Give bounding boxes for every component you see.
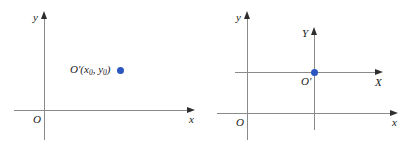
point-label-o-prime: O′(x0, y0): [70, 64, 110, 75]
y-axis-line: [247, 18, 248, 140]
y-axis-arrowhead: [41, 11, 47, 19]
panel-original-coordinate-system: x y O O′(x0, y0): [0, 0, 203, 151]
x-axis-line: [14, 110, 189, 111]
y-axis-line: [44, 18, 45, 140]
y-axis-arrowhead: [244, 11, 250, 19]
translated-y-axis-label: Y: [302, 28, 308, 39]
translated-y-axis-line: [314, 34, 315, 130]
x-axis-label: x: [392, 117, 397, 128]
panel-translated-coordinate-system: x y O X Y O′: [203, 0, 406, 151]
translated-x-axis-label: X: [375, 77, 382, 88]
x-axis-line: [217, 113, 392, 114]
translated-x-axis-line: [235, 72, 377, 73]
x-axis-arrowhead: [187, 107, 195, 113]
figure-coordinate-translation: x y O O′(x0, y0) x y O X Y O′: [0, 0, 406, 151]
y-axis-label: y: [33, 12, 38, 23]
point-marker-o-prime: [117, 67, 124, 74]
point-label-mid: , y: [93, 63, 103, 75]
translated-origin-marker: [311, 69, 318, 76]
point-label-subscript-x: 0: [89, 68, 93, 77]
point-label-subscript-y: 0: [103, 68, 107, 77]
point-label-tail: ): [107, 63, 111, 75]
x-axis-label: x: [189, 114, 194, 125]
y-axis-label: y: [236, 12, 241, 23]
translated-y-axis-arrowhead: [311, 27, 317, 35]
origin-label: O: [236, 117, 244, 128]
x-axis-arrowhead: [390, 110, 398, 116]
origin-label: O: [33, 114, 41, 125]
translated-origin-label: O′: [301, 76, 311, 87]
translated-x-axis-arrowhead: [375, 69, 383, 75]
point-label-head: O′(x: [70, 63, 89, 75]
